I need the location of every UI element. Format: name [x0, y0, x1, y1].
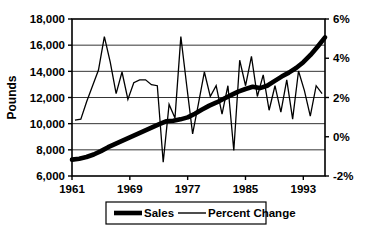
y-tick-label: 12,000 — [30, 92, 65, 104]
legend: SalesPercent Change — [106, 202, 296, 224]
legend-label-sales: Sales — [144, 207, 174, 219]
x-tick-label: 1985 — [233, 183, 259, 195]
y2-tick-label: 4% — [333, 52, 350, 64]
y2-tick-label: 6% — [333, 13, 350, 25]
line-chart: 6,0008,00010,00012,00014,00016,00018,000… — [0, 0, 371, 233]
y-tick-label: 18,000 — [30, 13, 65, 25]
x-axis: 19611969197719851993 — [59, 176, 316, 195]
legend-label-percent-change: Percent Change — [208, 207, 296, 219]
x-tick-label: 1969 — [117, 183, 143, 195]
y-tick-label: 16,000 — [30, 39, 65, 51]
y2-tick-label: 2% — [333, 92, 350, 104]
chart-container: 6,0008,00010,00012,00014,00016,00018,000… — [0, 0, 371, 233]
y-axis-title: Pounds — [5, 75, 19, 119]
y-tick-label: 14,000 — [30, 66, 65, 78]
y2-tick-label: -2% — [333, 170, 353, 182]
y-tick-label: 10,000 — [30, 118, 65, 130]
y-axis-right: -2%0%2%4%6% — [325, 13, 353, 182]
y-tick-label: 8,000 — [36, 144, 65, 156]
x-tick-label: 1977 — [175, 183, 201, 195]
y-axis-left: 6,0008,00010,00012,00014,00016,00018,000 — [30, 13, 72, 182]
y2-tick-label: 0% — [333, 131, 350, 143]
x-tick-label: 1993 — [291, 183, 317, 195]
x-tick-label: 1961 — [59, 183, 85, 195]
y-tick-label: 6,000 — [36, 170, 65, 182]
series-sales — [72, 37, 325, 159]
